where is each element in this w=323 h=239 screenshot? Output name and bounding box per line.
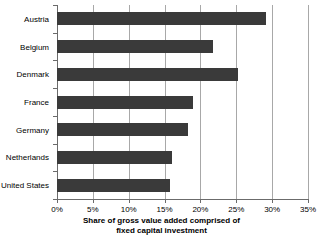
x-axis-tick [200, 199, 201, 203]
y-axis-tick [53, 60, 57, 61]
bar-row [57, 96, 308, 109]
bar-row [57, 12, 308, 25]
x-axis-title-line-1: Share of gross value added comprised of [0, 216, 323, 226]
bar [57, 40, 213, 53]
bar-row [57, 123, 308, 136]
x-axis-tick-label: 5% [87, 205, 99, 214]
bar [57, 68, 238, 81]
x-axis-tick [165, 199, 166, 203]
x-axis-tick-label: 20% [192, 205, 208, 214]
bar [57, 179, 170, 192]
x-axis-tick-label: 25% [228, 205, 244, 214]
y-axis-category-label: Germany [16, 125, 49, 134]
y-axis-category-label: Belgium [20, 42, 49, 51]
bar [57, 96, 193, 109]
x-axis-tick-label: 0% [51, 205, 63, 214]
y-axis-tick [53, 144, 57, 145]
y-axis-tick [53, 199, 57, 200]
y-axis-category-label: United States [1, 181, 49, 190]
x-axis-tick [272, 199, 273, 203]
y-axis-category-label: France [24, 98, 49, 107]
bar-row [57, 40, 308, 53]
x-axis-title-line-2: fixed capital investment [0, 226, 323, 236]
x-axis-tick-label: 30% [264, 205, 280, 214]
x-axis-tick [93, 199, 94, 203]
bar [57, 151, 172, 164]
x-axis-tick-label: 35% [300, 205, 316, 214]
y-axis-tick [53, 5, 57, 6]
x-axis-tick [129, 199, 130, 203]
bar [57, 123, 188, 136]
y-axis-category-label: Denmark [17, 70, 49, 79]
bar-row [57, 151, 308, 164]
bar [57, 12, 266, 25]
y-axis-tick [53, 171, 57, 172]
x-axis-tick [57, 199, 58, 203]
y-axis-tick [53, 116, 57, 117]
bar-row [57, 68, 308, 81]
gridline [308, 5, 309, 199]
y-axis-category-label: Netherlands [6, 153, 49, 162]
y-axis-tick [53, 88, 57, 89]
plot-area [57, 5, 308, 199]
y-axis-category-labels: AustriaBelgiumDenmarkFranceGermanyNether… [0, 5, 53, 199]
y-axis-tick [53, 33, 57, 34]
x-axis-tick [236, 199, 237, 203]
x-axis-tick [308, 199, 309, 203]
y-axis-category-label: Austria [24, 14, 49, 23]
x-axis-title: Share of gross value added comprised of … [0, 216, 323, 236]
x-axis-tick-label: 15% [157, 205, 173, 214]
bar-row [57, 179, 308, 192]
bar-chart: AustriaBelgiumDenmarkFranceGermanyNether… [0, 0, 323, 239]
x-axis-tick-label: 10% [121, 205, 137, 214]
